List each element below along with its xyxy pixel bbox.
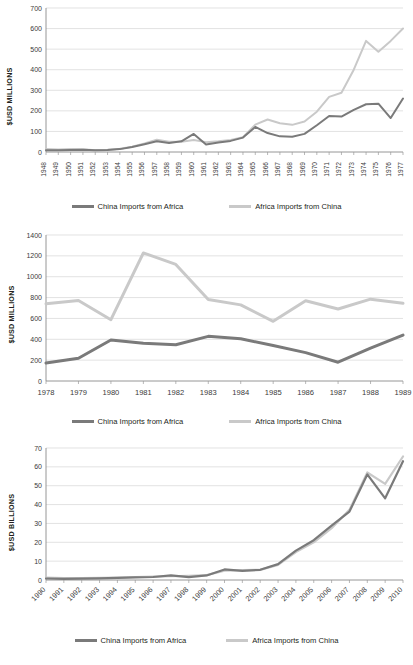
x-tick-label: 1957 [151, 162, 158, 177]
chart-panel-3: $USD BILLIONS 01020304050607019901991199… [0, 440, 413, 665]
x-tick-label: 1997 [154, 585, 172, 603]
legend-1: China Imports from Africa Africa Imports… [0, 202, 413, 211]
x-tick-label: 1970 [311, 162, 318, 177]
series-line [46, 456, 403, 578]
x-tick-label: 1988 [362, 388, 379, 397]
y-tick-label: 40 [34, 501, 42, 508]
y-tick-label: 10 [34, 558, 42, 565]
plot-area-1: 0100200300400500600700194819491950195119… [0, 0, 413, 200]
x-tick-label: 1986 [297, 388, 314, 397]
x-tick-label: 1984 [232, 388, 249, 397]
x-tick-label: 1948 [40, 162, 47, 177]
x-tick-label: 1995 [119, 585, 137, 603]
legend-swatch-light-2 [229, 420, 251, 422]
x-tick-label: 1962 [212, 162, 219, 177]
x-tick-label: 2002 [244, 585, 262, 603]
y-tick-label: 0 [38, 149, 42, 156]
legend-swatch-dark-3 [75, 639, 97, 641]
y-tick-label: 100 [30, 128, 42, 135]
y-tick-label: 1400 [26, 232, 42, 239]
x-tick-label: 2006 [315, 585, 333, 603]
x-tick-label: 1971 [323, 162, 330, 177]
y-tick-label: 30 [34, 520, 42, 527]
y-tick-label: 0 [38, 577, 42, 584]
x-tick-label: 1998 [172, 585, 190, 603]
x-tick-label: 1969 [299, 162, 306, 177]
x-tick-label: 1963 [225, 162, 232, 177]
legend-swatch-light [229, 205, 251, 207]
legend-label-dark-3: China Imports from Africa [101, 636, 187, 645]
x-tick-label: 1952 [89, 162, 96, 177]
series-line [46, 29, 403, 151]
x-tick-label: 2009 [369, 585, 387, 603]
y-tick-label: 60 [34, 463, 42, 470]
x-tick-label: 1991 [47, 585, 65, 603]
y-tick-label: 600 [30, 315, 42, 322]
legend-label-dark-2: China Imports from Africa [98, 417, 184, 426]
x-tick-label: 1955 [126, 162, 133, 177]
x-tick-label: 1994 [101, 585, 119, 603]
x-tick-label: 1989 [395, 388, 412, 397]
x-tick-label: 1968 [286, 162, 293, 177]
x-tick-label: 1960 [188, 162, 195, 177]
x-tick-label: 2007 [333, 585, 351, 603]
x-tick-label: 1974 [360, 162, 367, 177]
x-tick-label: 1985 [265, 388, 282, 397]
legend-item-africa-imports-3: Africa Imports from China [226, 636, 338, 645]
x-tick-label: 1990 [29, 585, 47, 603]
legend-swatch-light-3 [226, 639, 248, 641]
x-tick-label: 1956 [138, 162, 145, 177]
legend-item-china-imports-2: China Imports from Africa [72, 417, 184, 426]
x-tick-label: 1987 [330, 388, 347, 397]
plot-area-3: 0102030405060701990199119921993199419951… [0, 440, 413, 636]
legend-2: China Imports from Africa Africa Imports… [0, 417, 413, 426]
y-tick-label: 70 [34, 445, 42, 452]
legend-item-africa-imports: Africa Imports from China [229, 202, 341, 211]
y-tick-label: 400 [30, 66, 42, 73]
y-tick-label: 1000 [26, 273, 42, 280]
x-tick-label: 1966 [262, 162, 269, 177]
plot-area-2: 0200400600800100012001400197819791980198… [0, 225, 413, 415]
x-tick-label: 1961 [200, 162, 207, 177]
y-tick-label: 600 [30, 25, 42, 32]
x-tick-label: 1977 [397, 162, 404, 177]
y-tick-label: 0 [38, 378, 42, 385]
x-tick-label: 2008 [351, 585, 369, 603]
x-tick-label: 1959 [175, 162, 182, 177]
y-tick-label: 50 [34, 482, 42, 489]
x-tick-label: 1993 [83, 585, 101, 603]
y-tick-label: 200 [30, 107, 42, 114]
legend-label-dark: China Imports from Africa [98, 202, 184, 211]
legend-item-china-imports-3: China Imports from Africa [75, 636, 187, 645]
x-tick-label: 1949 [52, 162, 59, 177]
legend-3: China Imports from Africa Africa Imports… [0, 636, 413, 645]
x-tick-label: 2000 [208, 585, 226, 603]
x-tick-label: 2010 [386, 585, 404, 603]
y-tick-label: 400 [30, 336, 42, 343]
x-tick-label: 1965 [249, 162, 256, 177]
y-tick-label: 700 [30, 5, 42, 12]
x-tick-label: 1996 [137, 585, 155, 603]
y-tick-label: 300 [30, 87, 42, 94]
chart-panel-2: $USD MILLIONS 02004006008001000120014001… [0, 225, 413, 440]
x-tick-label: 1964 [237, 162, 244, 177]
y-tick-label: 20 [34, 539, 42, 546]
legend-label-light: Africa Imports from China [255, 202, 341, 211]
legend-label-light-2: Africa Imports from China [255, 417, 341, 426]
x-tick-label: 2001 [226, 585, 244, 603]
series-line [46, 99, 403, 151]
x-tick-label: 1981 [135, 388, 152, 397]
x-tick-label: 1983 [200, 388, 217, 397]
x-tick-label: 2003 [261, 585, 279, 603]
x-tick-label: 1954 [114, 162, 121, 177]
legend-swatch-dark-2 [72, 420, 94, 422]
chart-sheet: $USD MILLIONS 01002003004005006007001948… [0, 0, 413, 665]
x-tick-label: 1978 [38, 388, 55, 397]
y-tick-label: 200 [30, 357, 42, 364]
x-tick-label: 1973 [348, 162, 355, 177]
chart-svg-3: 0102030405060701990199119921993199419951… [0, 440, 413, 636]
x-tick-label: 2004 [279, 585, 297, 603]
x-tick-label: 1982 [167, 388, 184, 397]
x-tick-label: 1951 [77, 162, 84, 177]
x-tick-label: 1953 [102, 162, 109, 177]
